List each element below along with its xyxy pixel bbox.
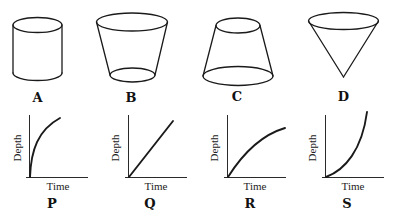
- x-axis-label: Time: [244, 180, 267, 192]
- y-axis-label: Depth: [11, 134, 23, 161]
- shape-d-inverted-cone: [309, 13, 379, 78]
- y-axis-label: Depth: [306, 134, 318, 161]
- graph-r: Depth Time R: [208, 115, 286, 211]
- shape-label-c: C: [232, 89, 242, 104]
- shape-a-cylinder: [13, 18, 62, 81]
- x-axis-label: Time: [145, 180, 168, 192]
- graph-q: Depth Time Q: [109, 115, 187, 211]
- shape-c-frustum-wide-bottom: [203, 18, 273, 86]
- shape-label-d: D: [338, 89, 349, 104]
- depth-curve: [326, 112, 367, 177]
- depth-curve: [228, 128, 285, 177]
- graph-label-q: Q: [144, 196, 155, 211]
- y-axis-label: Depth: [208, 134, 220, 161]
- graph-label-p: P: [47, 196, 57, 211]
- graph-label-r: R: [245, 196, 256, 211]
- x-axis-label: Time: [47, 180, 70, 192]
- graph-p: Depth Time P: [11, 115, 88, 211]
- graph-label-s: S: [342, 196, 351, 211]
- x-axis-label: Time: [342, 180, 365, 192]
- depth-curve: [30, 118, 60, 177]
- y-axis-label: Depth: [109, 134, 121, 161]
- shape-label-b: B: [126, 90, 137, 105]
- graph-s: Depth Time S: [306, 112, 384, 211]
- shape-b-frustum-wide-top: [97, 13, 168, 82]
- shape-label-a: A: [31, 90, 43, 105]
- depth-line: [129, 121, 173, 177]
- diagram-canvas: A B C D Depth Time P Depth Time Q: [0, 0, 395, 219]
